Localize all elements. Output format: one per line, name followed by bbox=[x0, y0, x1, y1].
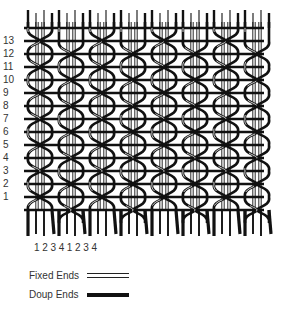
column-label: 3 bbox=[82, 242, 90, 253]
row-label: 3 bbox=[3, 166, 17, 176]
row-label: 9 bbox=[3, 88, 17, 98]
legend-label: Fixed Ends bbox=[29, 270, 87, 281]
row-label: 8 bbox=[3, 101, 17, 111]
row-label: 4 bbox=[3, 153, 17, 163]
row-label: 1 bbox=[3, 192, 17, 202]
leno-weave-diagram bbox=[0, 0, 284, 240]
column-label: 1 bbox=[66, 242, 74, 253]
row-label: 10 bbox=[3, 75, 17, 85]
row-label: 5 bbox=[3, 140, 17, 150]
row-label: 11 bbox=[3, 62, 17, 72]
column-label: 2 bbox=[74, 242, 82, 253]
column-label: 3 bbox=[49, 242, 57, 253]
legend-fixed-ends: Fixed Ends bbox=[29, 270, 129, 281]
row-label: 2 bbox=[3, 179, 17, 189]
row-label: 13 bbox=[3, 36, 17, 46]
doup-ends bbox=[28, 22, 269, 223]
legend-label: Doup Ends bbox=[29, 289, 87, 300]
double-line-swatch-icon bbox=[87, 273, 129, 278]
legend-doup-ends: Doup Ends bbox=[29, 289, 129, 300]
row-label: 12 bbox=[3, 49, 17, 59]
column-label: 1 bbox=[33, 242, 41, 253]
row-label: 6 bbox=[3, 127, 17, 137]
column-label: 4 bbox=[90, 242, 98, 253]
column-labels: 12341234 bbox=[33, 242, 99, 253]
column-label: 4 bbox=[58, 242, 66, 253]
column-label: 2 bbox=[41, 242, 49, 253]
thick-line-swatch-icon bbox=[87, 293, 129, 297]
row-label: 7 bbox=[3, 114, 17, 124]
